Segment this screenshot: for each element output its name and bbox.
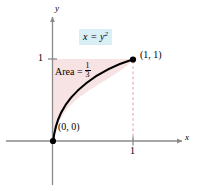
figure-container: y x 1 1 (0, 0) (1, 1) x = y2 Area = 1 3 [0,0,197,191]
point-marker-origin [50,138,56,144]
plot-canvas [0,0,197,191]
shaded-area-region [53,59,134,141]
point-marker-one-one [130,56,136,62]
